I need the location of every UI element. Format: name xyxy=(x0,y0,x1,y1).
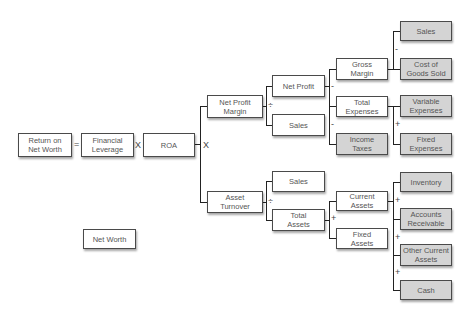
node-fixed-assets: Fixed Assets xyxy=(336,228,388,249)
connector xyxy=(266,86,267,125)
connector xyxy=(329,201,336,202)
connector xyxy=(266,181,267,220)
operator-minus: - xyxy=(331,120,334,129)
connector xyxy=(329,106,336,107)
operator-times: X xyxy=(135,141,141,150)
connector xyxy=(393,69,400,70)
node-financial-leverage: Financial Leverage xyxy=(81,133,134,157)
node-sales-gm: Sales xyxy=(400,21,452,41)
node-variable-expenses: Variable Expenses xyxy=(400,95,452,117)
operator-plus: + xyxy=(395,268,400,277)
connector xyxy=(329,201,330,239)
connector xyxy=(393,106,400,107)
connector xyxy=(329,69,336,70)
node-cash: Cash xyxy=(400,280,452,300)
connector xyxy=(329,238,336,239)
operator-plus: + xyxy=(395,196,400,205)
operator-plus: + xyxy=(395,120,400,129)
node-total-expenses: Total Expenses xyxy=(336,96,388,117)
connector xyxy=(393,31,400,32)
operator-equals: = xyxy=(74,140,79,149)
node-asset-turnover: Asset Turnover xyxy=(207,191,263,213)
connector xyxy=(393,219,400,220)
node-net-profit-margin: Net Profit Margin xyxy=(207,95,263,118)
connector xyxy=(329,69,330,145)
node-other-current-assets: Other Current Assets xyxy=(400,244,452,266)
connector xyxy=(393,106,394,145)
node-current-assets: Current Assets xyxy=(336,191,388,211)
operator-divide: ÷ xyxy=(268,197,273,206)
node-cost-of-goods-sold: Cost of Goods Sold xyxy=(400,58,452,80)
node-inventory: Inventory xyxy=(400,172,452,192)
node-fixed-expenses: Fixed Expenses xyxy=(400,133,452,155)
node-roa: ROA xyxy=(143,133,195,157)
roe-decomposition-diagram: Return on Net Worth Financial Leverage R… xyxy=(0,0,472,313)
node-income-taxes: Income Taxes xyxy=(336,133,388,155)
node-sales-at: Sales xyxy=(272,171,325,192)
connector xyxy=(393,182,394,291)
node-gross-margin: Gross Margin xyxy=(336,58,388,80)
connector xyxy=(393,182,400,183)
operator-divide: ÷ xyxy=(268,101,273,110)
connector xyxy=(393,144,400,145)
node-accounts-receivable: Accounts Receivable xyxy=(400,208,452,230)
connector xyxy=(393,290,400,291)
operator-plus: + xyxy=(331,214,336,223)
node-total-assets: Total Assets xyxy=(272,209,325,231)
connector xyxy=(200,106,207,107)
connector xyxy=(329,144,336,145)
connector xyxy=(200,106,201,202)
operator-plus: + xyxy=(395,233,400,242)
connector xyxy=(393,255,400,256)
node-return-on-net-worth: Return on Net Worth xyxy=(18,133,72,157)
node-net-profit: Net Profit xyxy=(272,75,325,97)
connector xyxy=(393,31,394,70)
operator-minus: - xyxy=(395,45,398,54)
operator-minus: - xyxy=(331,82,334,91)
operator-times: X xyxy=(203,141,209,150)
connector xyxy=(200,202,207,203)
node-sales-npm: Sales xyxy=(272,114,325,136)
node-net-worth: Net Worth xyxy=(83,229,136,249)
